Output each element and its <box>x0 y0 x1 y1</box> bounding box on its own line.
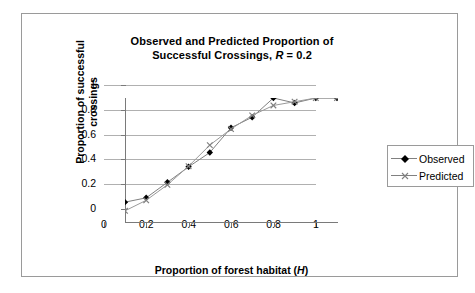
x-tick-label: 0 <box>84 218 124 230</box>
chart-title-line2-prefix: Successful Crossings, <box>152 49 275 61</box>
chart-title-line2-suffix: = 0.2 <box>283 49 311 61</box>
chart-title-line1: Observed and Predicted Proportion of <box>131 35 334 47</box>
series-line-predicted <box>125 98 337 211</box>
y-tick-label: 0 <box>66 202 96 214</box>
y-tick-label: 0.4 <box>66 152 96 164</box>
y-tick-label: 0.8 <box>66 103 96 115</box>
data-point-observed <box>291 100 297 106</box>
legend-item-observed[interactable]: Observed <box>388 150 473 167</box>
chart-legend: Observed Predicted <box>387 145 474 187</box>
plot-series-layer <box>125 98 338 224</box>
cross-marker-icon <box>391 169 417 183</box>
legend-item-predicted[interactable]: Predicted <box>388 167 473 184</box>
x-axis-title-italic-h: H <box>297 264 305 276</box>
y-tick-label: 0.6 <box>66 128 96 140</box>
legend-label-observed: Observed <box>417 153 465 165</box>
y-tick-mark <box>121 85 126 86</box>
data-point-predicted <box>125 208 128 214</box>
chart-title: Observed and Predicted Proportion of Suc… <box>82 34 382 62</box>
y-tick-label: 1 <box>66 78 96 90</box>
chart-frame: Observed and Predicted Proportion of Suc… <box>21 13 458 277</box>
x-axis-title-prefix: Proportion of forest habitat ( <box>155 264 297 276</box>
y-tick-label: 0.2 <box>66 177 96 189</box>
diamond-marker-icon <box>391 152 417 166</box>
series-line-observed <box>125 98 337 202</box>
gridline-y <box>104 85 316 86</box>
legend-label-predicted: Predicted <box>417 170 463 182</box>
data-point-predicted <box>207 142 213 148</box>
x-axis-title-suffix: ) <box>305 264 309 276</box>
x-axis-title: Proportion of forest habitat (H) <box>125 264 338 276</box>
data-point-observed <box>125 199 128 205</box>
